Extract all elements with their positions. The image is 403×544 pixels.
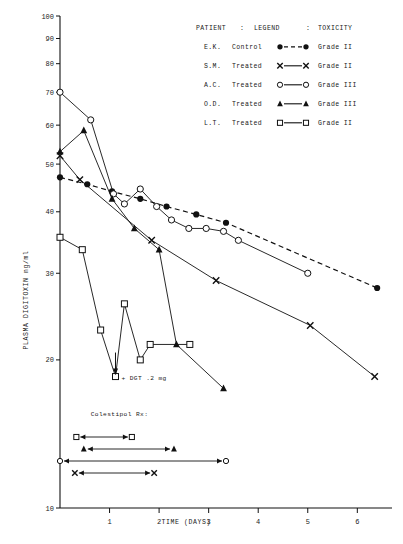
treatment-bar-arrow [217,458,222,463]
treatment-bar-arrow [123,434,128,439]
legend-sample-marker [277,82,282,87]
legend-treatment: Treated [232,101,262,108]
data-point [57,174,63,180]
chart-figure: 102030405060708090100123456PLASMA DIGITO… [0,0,403,544]
legend-header-sep-1: : [240,25,244,32]
legend-sample-marker [277,120,282,125]
dgt-dose-annotation: + DGT .2 mg [121,375,166,382]
treatment-bar-arrow [145,470,150,475]
treatment-bar-arrow [64,458,69,463]
treatment-bar-marker [72,470,77,475]
y-tick-label: 30 [46,270,54,278]
data-point [57,234,63,240]
data-point [193,211,199,217]
data-point [163,203,169,209]
y-tick-label: 80 [46,60,54,68]
y-tick-label: 20 [46,356,54,364]
data-point [57,89,63,95]
legend-header-patient: PATIENT [196,25,226,32]
data-point [80,127,87,134]
data-point [57,148,64,155]
treatment-bar-marker [171,446,177,452]
data-point [187,341,193,347]
data-point [186,225,192,231]
series-line [60,92,308,273]
treatment-bar-marker [129,434,134,439]
series-line [60,177,377,288]
legend-sample-marker [303,100,309,106]
legend-treatment: Treated [232,120,262,127]
data-point [121,201,127,207]
legend-sample-marker [303,63,308,68]
colestipol-label: Colestipol Rx: [91,411,149,418]
data-point [137,196,143,202]
data-point [213,277,219,283]
x-tick-label: 6 [355,518,359,526]
data-point [371,373,377,379]
y-tick-label: 50 [46,161,54,169]
series-lt [57,234,193,379]
series-ek [57,174,380,291]
treatment-bar-marker [151,470,156,475]
treatment-bar-marker [81,446,87,452]
data-point [168,217,174,223]
data-point [121,301,127,307]
y-tick-label: 100 [41,13,54,21]
legend-treatment: Control [232,44,262,51]
legend-patient-name: A.C. [204,82,221,89]
digitoxin-plasma-chart: 102030405060708090100123456PLASMA DIGITO… [0,0,403,544]
series-ac [57,89,311,276]
legend-sample-marker [277,63,282,68]
legend-sample-marker [277,100,283,106]
y-tick-label: 40 [46,208,54,216]
data-point [220,228,226,234]
data-point [223,220,229,226]
y-tick-label: 60 [46,122,54,130]
series-sm [57,153,378,380]
legend-toxicity: Grade III [318,82,357,89]
legend-treatment: Treated [232,63,262,70]
data-point [203,225,209,231]
data-point [98,327,104,333]
data-point [305,270,311,276]
x-tick-label: 1 [107,518,111,526]
data-point [374,285,380,291]
x-tick-label: 2 [157,518,161,526]
y-tick-label: 70 [46,89,54,97]
y-tick-label: 10 [46,505,54,513]
legend-toxicity: Grade III [318,101,357,108]
data-point [148,237,154,243]
data-point [147,341,153,347]
treatment-bar-marker [74,434,79,439]
legend-header-sep-2: : [306,25,310,32]
data-point [307,322,313,328]
legend-sample-marker [303,82,308,87]
legend-toxicity: Grade II [318,120,352,127]
legend-patient-name: L.T. [204,120,221,127]
legend-sample-marker [277,44,282,49]
data-point [154,203,160,209]
x-axis-title: TIME (DAYS) [162,519,212,526]
legend-toxicity: Grade II [318,63,352,70]
legend-sample-marker [303,120,308,125]
x-tick-label: 5 [306,518,310,526]
treatment-bar [74,434,135,439]
data-point [137,186,143,192]
data-point [88,117,94,123]
y-axis-title: PLASMA DIGITOXIN ng/ml [23,250,30,349]
data-point [235,237,241,243]
series-od [57,127,227,392]
legend-patient-name: S.M. [204,63,221,70]
legend-header-toxicity: TOXICITY [318,25,352,32]
y-tick-label: 90 [46,35,54,43]
data-point [173,340,180,347]
legend-patient-name: E.K. [204,44,221,51]
treatment-bar-arrow [80,434,85,439]
treatment-bar-arrow [165,446,170,451]
treatment-bar-arrow [79,470,84,475]
treatment-bar-marker [223,458,228,463]
legend-treatment: Treated [232,82,262,89]
legend-patient-name: O.D. [204,101,221,108]
treatment-bar-arrow [88,446,93,451]
treatment-bar [72,470,157,475]
